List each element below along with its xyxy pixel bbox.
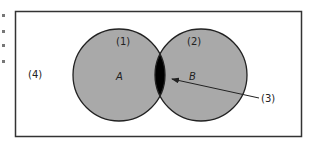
venn-diagram: (4) (1) A (2) B (3) xyxy=(0,0,315,145)
universe-label: (4) xyxy=(28,69,42,80)
intersection-label: (3) xyxy=(261,93,275,104)
set-b-number-label: (2) xyxy=(187,36,201,47)
set-a-letter-label: A xyxy=(115,71,123,82)
set-b-letter-label: B xyxy=(189,71,196,82)
set-a-number-label: (1) xyxy=(116,36,130,47)
